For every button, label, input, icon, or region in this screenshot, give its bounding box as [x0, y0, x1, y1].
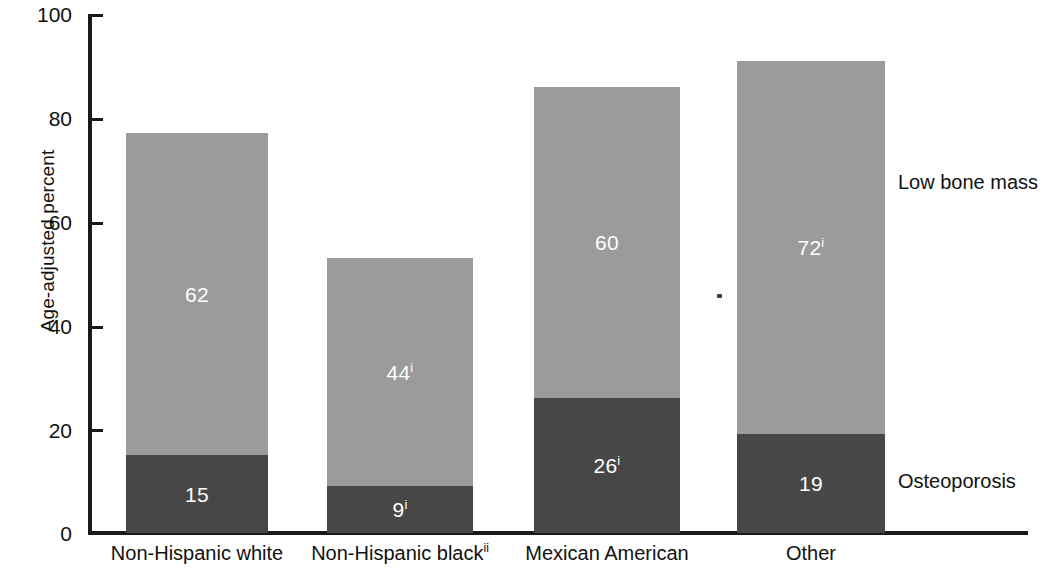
bar-segment-osteoporosis: 15	[126, 455, 268, 533]
category-label-mexican-american: Mexican American	[514, 541, 700, 565]
bar-value-low-bone-mass: 62	[185, 284, 209, 305]
bar-non-hispanic-white: 62 15	[126, 133, 268, 533]
bar-segment-low-bone-mass: 44i	[327, 258, 473, 486]
y-tick-label-80: 80	[24, 108, 72, 129]
bar-value-osteoporosis: 19	[799, 473, 823, 494]
bar-non-hispanic-black: 44i 9i	[327, 258, 473, 533]
bar-mexican-american: 60 26i	[534, 87, 680, 533]
bar-segment-low-bone-mass: 72i	[737, 61, 885, 435]
y-tick-label-40: 40	[24, 316, 72, 337]
scan-artifact-speck	[717, 294, 722, 298]
stacked-bar-chart: Age-adjusted percent 100 80 60 40 20 0 6…	[0, 0, 1055, 573]
y-tick-label-0: 0	[24, 523, 72, 544]
legend-label-low-bone-mass: Low bone mass	[898, 172, 1038, 192]
bar-segment-osteoporosis: 26i	[534, 398, 680, 533]
category-label-non-hispanic-black: Non-Hispanic blackii	[307, 541, 493, 565]
category-label-other: Other	[717, 541, 905, 565]
bar-value-osteoporosis: 26i	[594, 455, 621, 476]
y-axis-tick-labels: 100 80 60 40 20 0	[18, 0, 72, 573]
y-tick-label-60: 60	[24, 212, 72, 233]
bar-other: 72i 19	[737, 61, 885, 533]
y-tick-label-100: 100	[24, 4, 72, 25]
bar-value-osteoporosis: 15	[185, 484, 209, 505]
bar-value-low-bone-mass: 60	[595, 232, 619, 253]
y-tick-label-20: 20	[24, 420, 72, 441]
y-axis-line	[88, 14, 92, 535]
y-tick-mark-80	[88, 118, 103, 121]
bar-segment-low-bone-mass: 60	[534, 87, 680, 398]
bar-value-low-bone-mass: 72i	[798, 237, 825, 258]
bar-segment-osteoporosis: 9i	[327, 486, 473, 533]
bar-value-low-bone-mass: 44i	[387, 362, 414, 383]
y-tick-mark-20	[88, 429, 103, 432]
bar-segment-osteoporosis: 19	[737, 434, 885, 533]
category-label-non-hispanic-white: Non-Hispanic white	[106, 541, 288, 565]
y-tick-mark-100	[88, 14, 103, 17]
bar-segment-low-bone-mass: 62	[126, 133, 268, 455]
bar-value-osteoporosis: 9i	[393, 499, 408, 520]
legend-label-osteoporosis: Osteoporosis	[898, 471, 1016, 491]
y-tick-mark-60	[88, 222, 103, 225]
y-tick-mark-40	[88, 326, 103, 329]
